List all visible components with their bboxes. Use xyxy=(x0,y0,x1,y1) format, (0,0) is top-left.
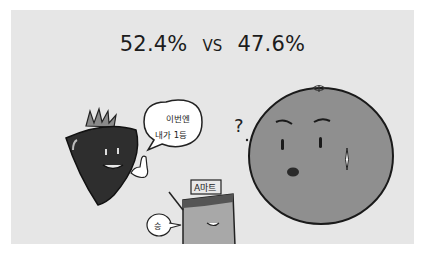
speech-line-1: 이번엔 xyxy=(166,114,190,124)
question-mark: ? xyxy=(234,115,244,136)
box-speech-bubble: 승 xyxy=(147,214,181,236)
illustration-panel: 52.4% VS 47.6% ? xyxy=(11,10,414,244)
speech-line-2: 내가 1등 xyxy=(155,130,187,140)
mart-box-character: A마트 xyxy=(169,180,235,244)
box-speech-text: 승 xyxy=(154,222,161,231)
orange-character xyxy=(249,85,393,224)
strawberry-character xyxy=(66,109,148,205)
mart-sign-label: A마트 xyxy=(194,183,216,193)
strawberry-speech-bubble: 이번엔 내가 1등 xyxy=(144,100,202,150)
cartoon-illustration: ? 이번엔 내가 1등 A마트 xyxy=(11,10,414,244)
